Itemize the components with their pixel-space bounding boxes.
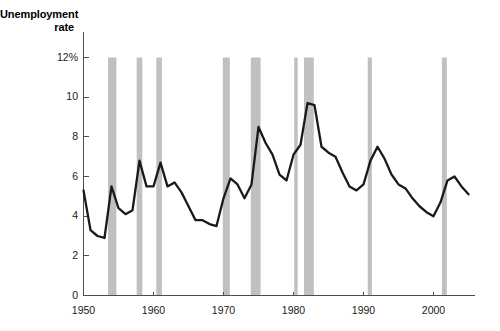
x-axis-tick-label: 2000 (409, 305, 459, 316)
chart-plot-area (0, 0, 500, 331)
x-axis-tick-label: 1950 (59, 305, 109, 316)
y-axis-tick-label: 10 (34, 91, 78, 102)
recession-band (108, 58, 116, 296)
x-axis-tick-label: 1970 (199, 305, 249, 316)
x-axis-tick-label: 1990 (339, 305, 389, 316)
y-axis-tick-label: 4 (34, 210, 78, 221)
y-axis-tick-label: 0 (34, 290, 78, 301)
unemployment-rate-chart: Unemployment rate 024681012% 19501960197… (0, 0, 500, 331)
y-axis-tick-label: 8 (34, 131, 78, 142)
y-axis-tick-label: 12% (34, 52, 78, 63)
recession-band (442, 58, 447, 296)
x-axis-tick-label: 1960 (129, 305, 179, 316)
x-axis-tick-label: 1980 (269, 305, 319, 316)
y-axis-tick-label: 2 (34, 250, 78, 261)
recession-band (294, 58, 298, 296)
recession-band (368, 58, 372, 296)
y-axis-tick-label: 6 (34, 171, 78, 182)
recession-bands-group (108, 58, 447, 296)
recession-band (223, 58, 230, 296)
recession-band (304, 58, 314, 296)
